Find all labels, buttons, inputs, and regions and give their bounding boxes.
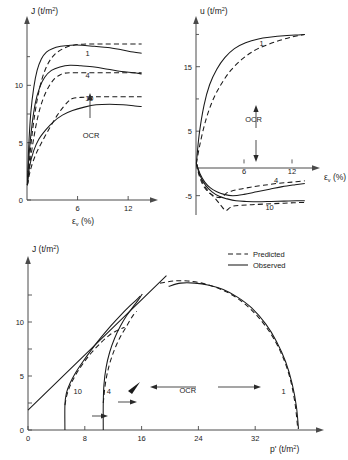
annotation-4: 4	[107, 387, 111, 396]
chart2-curves	[28, 276, 299, 430]
chart0-yticklabel: 10	[15, 81, 23, 90]
chart-stress-path-j-vs-p: 081624320510 1041OCR Predicted Observed …	[0, 230, 348, 460]
chart2-x-arrowhead	[316, 427, 324, 433]
chart1-ocr-arrowhead-down	[253, 155, 258, 162]
chart2-yticklabel: 10	[16, 318, 24, 327]
chart2-xticklabel: 0	[26, 434, 30, 443]
chart1-x-arrowhead	[312, 165, 320, 171]
chart0-y-axis-title: J (t/m2)	[31, 6, 58, 16]
annotation-1: 1	[86, 49, 90, 58]
chart0-yticklabel: 0	[19, 196, 23, 205]
chart2-path10-arrowhead	[101, 414, 108, 419]
chart2-ocr-arrowhead-right	[254, 385, 261, 390]
chart1-ocr-arrowhead-up	[253, 105, 258, 112]
annotation-10: 10	[265, 203, 273, 212]
chart2-xticklabel: 32	[251, 434, 259, 443]
curve-ocr-4-predicted	[27, 73, 141, 185]
chart1-canvas: 612-5515 1OCR410 u (t/m2) εv (%)	[174, 0, 348, 230]
annotation-ocr: OCR	[179, 386, 196, 395]
chart0-xticklabel: 12	[124, 204, 132, 213]
chart2-xticklabel: 8	[83, 434, 87, 443]
chart1-yticklabel: 15	[184, 63, 192, 72]
annotation-1: 1	[282, 387, 286, 396]
curve-ocr-10-predicted	[27, 97, 141, 185]
chart2-x-axis-title: p' (t/m2)	[270, 444, 299, 454]
annotation-ocr: OCR	[83, 131, 100, 140]
chart1-y-arrowhead	[193, 16, 199, 24]
chart0-x-arrowhead	[150, 197, 158, 203]
chart2-csl-arrowhead	[128, 382, 140, 394]
annotation-4: 4	[274, 176, 278, 185]
legend-predicted-label: Predicted	[253, 250, 285, 259]
chart1-x-axis-title: εv (%)	[324, 172, 346, 183]
chart0-yticklabel: 5	[19, 139, 23, 148]
chart0-annotations: 1410OCR	[83, 49, 100, 141]
curve-ocr-10-observed	[27, 104, 141, 185]
chart0-y-arrowhead	[24, 16, 30, 24]
chart0-xticklabel: 6	[75, 204, 79, 213]
curve-ocr-4-observed	[103, 294, 142, 430]
chart0-canvas: 6120510 1410OCR J (t/m2) εv (%)	[0, 0, 174, 230]
annotation-10: 10	[74, 387, 82, 396]
chart2-xticklabel: 24	[194, 434, 202, 443]
chart2-path4-arrowhead	[130, 400, 137, 405]
chart2-y-axis-title: J (t/m2)	[32, 244, 59, 254]
curve-ocr-1-observed	[196, 34, 304, 163]
chart1-y-axis-title: u (t/m2)	[200, 6, 228, 16]
annotation-1: 1	[260, 39, 264, 48]
chart0-x-axis-title: εv (%)	[72, 216, 94, 227]
chart1-annotations: 1OCR410	[245, 39, 278, 212]
chart2-xticklabel: 16	[137, 434, 145, 443]
chart0-curves	[27, 44, 141, 185]
chart2-yticklabel: 0	[20, 426, 24, 435]
legend-observed-label: Observed	[253, 261, 286, 270]
chart1-xticklabel: 12	[288, 167, 296, 176]
curve-ocr-1-observed	[169, 283, 299, 429]
annotation-ocr: OCR	[245, 115, 262, 124]
chart1-yticklabel: -5	[185, 192, 192, 201]
chart-deviator-stress-vs-strain: 6120510 1410OCR J (t/m2) εv (%)	[0, 0, 174, 230]
chart1-xticklabel: 6	[242, 167, 246, 176]
chart2-ticks: 081624320510	[16, 295, 260, 443]
chart2-yticklabel: 5	[20, 372, 24, 381]
chart2-ocr-arrowhead-left	[150, 385, 157, 390]
chart2-annotations: 1041OCR	[74, 386, 286, 396]
curve-ocr-1-predicted	[160, 281, 298, 429]
legend: Predicted Observed	[228, 250, 286, 270]
curve-ocr-1-predicted	[196, 34, 304, 163]
chart2-canvas: 081624320510 1041OCR Predicted Observed …	[0, 230, 348, 460]
chart1-yticklabel: 5	[188, 127, 192, 136]
annotation-4: 4	[86, 71, 90, 80]
chart2-y-arrowhead	[25, 256, 31, 264]
curve-ocr-4-observed	[27, 65, 141, 185]
chart-pore-pressure-vs-strain: 612-5515 1OCR410 u (t/m2) εv (%)	[174, 0, 348, 230]
curve-ocr-1-predicted	[27, 44, 141, 185]
